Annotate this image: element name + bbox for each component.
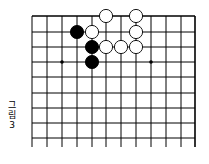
- white-stone: [129, 9, 142, 22]
- white-stone: [99, 40, 112, 53]
- white-stone: [129, 40, 142, 53]
- white-stone: [114, 40, 127, 53]
- caption-char-2: 림: [6, 110, 18, 120]
- caption-number: 3: [6, 120, 18, 130]
- caption-char-1: 그: [6, 100, 18, 110]
- white-stone: [99, 9, 112, 22]
- black-stone: [70, 25, 83, 38]
- black-stone: [85, 55, 98, 68]
- star-point: [60, 60, 64, 64]
- white-stone: [85, 25, 98, 38]
- go-board: [0, 0, 209, 164]
- white-stone: [129, 25, 142, 38]
- figure-caption: 그 림 3: [6, 100, 18, 130]
- black-stone: [85, 40, 98, 53]
- star-point: [149, 60, 153, 64]
